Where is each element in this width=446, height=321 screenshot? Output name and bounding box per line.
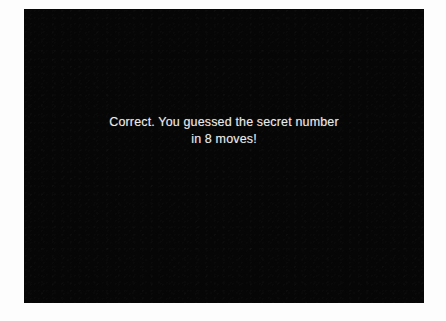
result-message-line-2: in 8 moves! — [24, 131, 424, 148]
result-message-line-1: Correct. You guessed the secret number — [24, 114, 424, 131]
game-result-message: Correct. You guessed the secret number i… — [24, 114, 424, 148]
screenshot-root: Correct. You guessed the secret number i… — [0, 0, 446, 321]
game-output-panel: Correct. You guessed the secret number i… — [24, 9, 424, 303]
